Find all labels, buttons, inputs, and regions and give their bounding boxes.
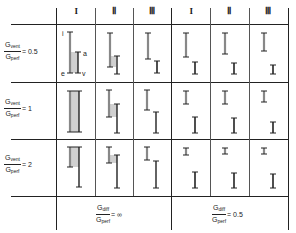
bar-row3-col3: [144, 147, 159, 188]
bar-row2-col3: [144, 90, 159, 133]
bar-row1-col2: [107, 33, 120, 74]
bar-row2-col6: [261, 91, 276, 133]
bar-row2-col1: [67, 91, 82, 132]
bar-row2-col2: [106, 90, 120, 133]
bar-row3-col4: [183, 148, 198, 188]
bar-row2-col4: [183, 91, 198, 133]
svg-text:i: i: [62, 30, 64, 37]
svg-text:a: a: [83, 50, 87, 57]
bar-row3-col2: [106, 147, 120, 188]
bar-row3-col6: [261, 148, 276, 188]
gradient-bars-diagram: i e a v: [0, 0, 296, 233]
bar-row3-col1: [67, 147, 82, 187]
bar-row3-col5: [222, 148, 237, 188]
bar-row1-col6: [261, 33, 276, 74]
bar-row2-col5: [222, 91, 237, 133]
bar-row1-col1: i e a v: [61, 30, 87, 77]
svg-text:e: e: [61, 70, 65, 77]
svg-text:v: v: [82, 70, 86, 77]
bar-row1-col5: [222, 33, 237, 74]
bar-row1-col3: [145, 33, 160, 73]
bar-row1-col4: [183, 33, 198, 74]
